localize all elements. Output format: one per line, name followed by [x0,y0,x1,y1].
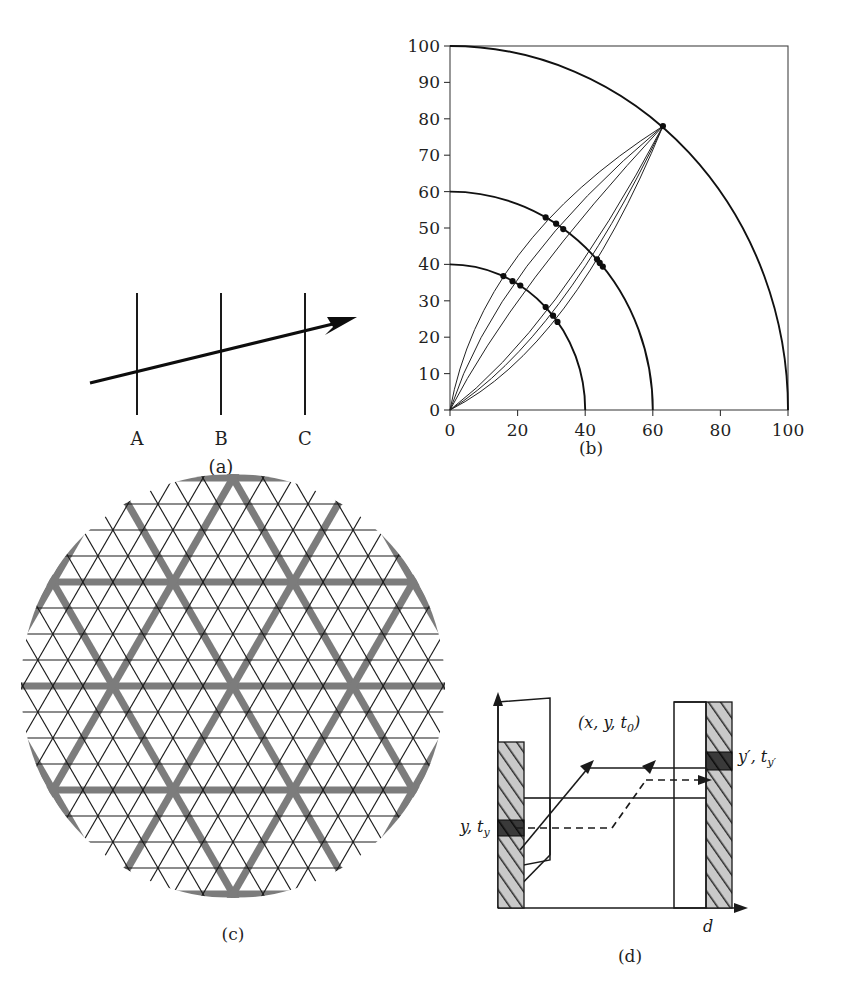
y-tick-label: 90 [418,72,440,92]
panel-d-diagram: y, ty y′, ty′ (x, y, t0) d (d) [460,680,848,980]
y-tick-label: 20 [418,327,440,347]
y-tick-label: 40 [418,254,440,274]
intersection-marker [500,273,506,279]
y-tick-label: 0 [429,400,440,420]
x-tick-label: 0 [445,420,456,440]
y-tick-label: 50 [418,218,440,238]
panel-c: (c) [28,468,448,948]
intersection-marker [517,282,523,288]
panel-d: y, ty y′, ty′ (x, y, t0) d (d) [460,680,848,980]
y-tick-label: 80 [418,109,440,129]
intersection-marker [554,319,560,325]
x-tick-label: 60 [642,420,664,440]
arc-r100 [450,46,788,410]
trajectory-solid-arrowhead-2 [642,760,656,774]
axis-horizontal-arrowhead [734,903,748,913]
trajectory-dashed-diagonal [612,780,646,828]
line-label-c: C [298,428,312,449]
figure-root: A B C (a) 010203040506070809010002040608… [0,0,848,993]
x-tick-label: 20 [507,420,529,440]
intersection-marker [553,221,559,227]
lattice-line-thick [0,573,178,993]
label-source: y, ty [459,817,491,839]
panel-b-caption: (b) [579,438,603,458]
y-tick-label: 10 [418,364,440,384]
label-point: (x, y, t0) [578,713,640,735]
line-label-a: A [130,428,145,449]
right-plane-band [706,752,732,770]
intersection-marker [660,123,666,129]
y-tick-label: 60 [418,182,440,202]
panel-c-lattice: (c) [28,468,448,948]
panel-c-caption: (c) [222,924,245,944]
panel-a: A B C (a) [95,265,385,475]
y-tick-label: 100 [408,36,440,56]
intersection-marker [543,304,549,310]
intersection-marker [550,313,556,319]
panel-a-graphic: A B C (a) [95,265,385,475]
right-hatched-plane [706,702,732,908]
trajectory-solid-arrowhead-1 [580,760,594,774]
label-target: y′, ty′ [737,747,776,769]
panel-b: 0102030405060708090100020406080100 (b) [398,22,848,462]
arc-r60 [450,192,653,410]
trajectory-arrow-shaft [90,323,337,383]
intersection-marker [600,263,606,269]
panel-d-caption: (d) [618,946,642,966]
trajectory-solid-diagonal [520,768,588,850]
intersection-marker [560,226,566,232]
x-tick-label: 80 [710,420,732,440]
intersection-marker [509,278,515,284]
x-tick-label: 40 [574,420,596,440]
right-plane-outline [674,702,706,908]
line-label-b: B [214,428,227,449]
intersection-marker [543,214,549,220]
panel-b-chart: 0102030405060708090100020406080100 (b) [398,22,848,462]
plot-frame [450,46,788,410]
y-tick-label: 70 [418,145,440,165]
y-tick-label: 30 [418,291,440,311]
label-distance: d [703,917,713,936]
x-tick-label: 100 [772,420,804,440]
